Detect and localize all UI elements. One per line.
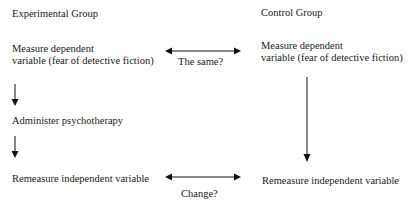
down-arrow-icon-control: [304, 77, 311, 162]
down-arrow-icon-1: [12, 84, 19, 106]
double-arrow-icon-pre: [165, 48, 241, 55]
down-arrow-icon-2: [12, 136, 19, 158]
arrows-layer: [0, 0, 409, 210]
double-arrow-icon-post: [165, 174, 241, 181]
